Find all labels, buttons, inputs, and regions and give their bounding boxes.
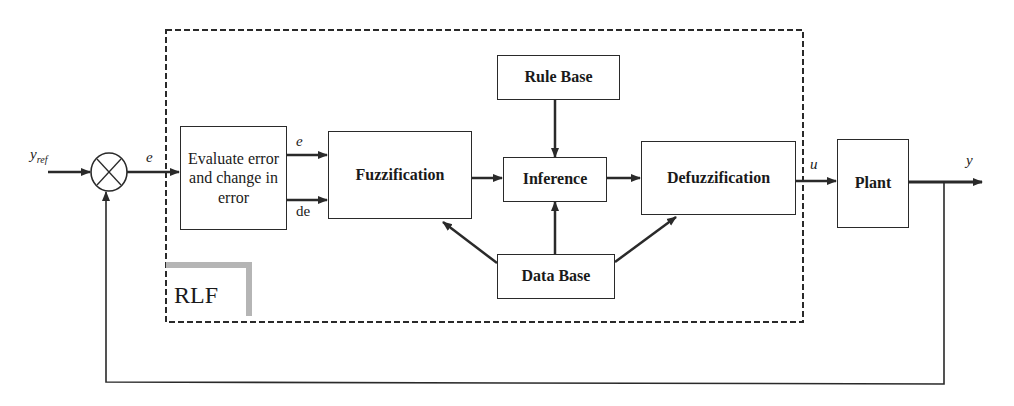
defuzzification-block: Defuzzification [641,141,796,215]
plant-block: Plant [837,139,909,228]
control-signal-label: u [810,156,818,173]
change-in-error-label: de [296,203,310,220]
yref-label: yref [30,146,47,165]
output-label: y [966,152,973,169]
inference-block: Inference [503,157,607,202]
summing-junction [91,153,127,191]
error-out-label: e [296,133,303,150]
fuzzification-block: Fuzzification [328,131,472,219]
rlf-label-frame: RLF [166,262,252,316]
data-base-block: Data Base [497,254,615,299]
rlf-label: RLF [174,282,218,309]
evaluate-error-block: Evaluate error and change in error [180,126,287,230]
error-label: e [146,149,153,166]
rule-base-block: Rule Base [497,55,620,100]
